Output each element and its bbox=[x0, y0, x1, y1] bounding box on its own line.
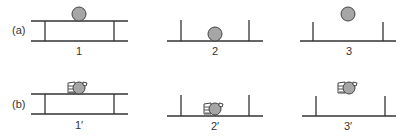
hand-holding-ball-icon bbox=[338, 82, 357, 94]
panel-label-1-prime: 1′ bbox=[75, 119, 83, 131]
row-a: (a) 1 2 3 bbox=[12, 7, 396, 57]
row-label-b: (b) bbox=[12, 98, 25, 110]
panel-label-3: 3 bbox=[346, 45, 352, 57]
panel-label-2-prime: 2′ bbox=[211, 120, 219, 132]
panel-3-prime: 3′ bbox=[302, 82, 396, 132]
panel-label-2: 2 bbox=[212, 45, 218, 57]
panel-label-3-prime: 3′ bbox=[344, 120, 352, 132]
row-label-a: (a) bbox=[12, 24, 25, 36]
panel-label-1: 1 bbox=[76, 45, 82, 57]
panel-1-prime: 1′ bbox=[31, 82, 128, 131]
support-diagram: (a) 1 2 3 (b) bbox=[0, 0, 416, 138]
ball-icon bbox=[72, 7, 86, 21]
panel-1: 1 bbox=[31, 7, 128, 57]
panel-2-prime: 2′ bbox=[167, 95, 263, 132]
row-b: (b) 1′ 2′ 3′ bbox=[12, 82, 396, 132]
panel-2: 2 bbox=[167, 20, 263, 57]
ball-icon bbox=[208, 27, 222, 41]
panel-3: 3 bbox=[300, 7, 396, 57]
hand-holding-ball-icon bbox=[68, 82, 87, 94]
hand-holding-ball-icon bbox=[204, 103, 223, 115]
ball-icon bbox=[341, 7, 355, 21]
